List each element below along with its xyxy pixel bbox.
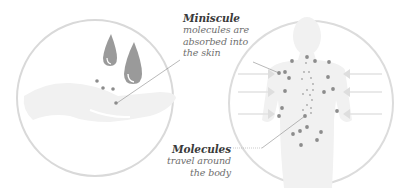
callout-miniscule-line: molecules are	[183, 24, 249, 36]
callout-molecules-line: the body	[153, 167, 231, 179]
callout-miniscule-line: the skin	[183, 47, 249, 59]
diagram: Miniscule molecules are absorbed into th…	[0, 0, 403, 191]
right-circle	[229, 17, 393, 188]
callout-miniscule: Miniscule molecules are absorbed into th…	[183, 12, 249, 59]
callout-miniscule-line: absorbed into	[183, 36, 249, 48]
callout-molecules: Molecules travel around the body	[153, 143, 231, 178]
callout-miniscule-title: Miniscule	[183, 12, 249, 24]
callout-molecules-line: travel around	[153, 155, 231, 167]
callout-molecules-title: Molecules	[153, 143, 231, 155]
